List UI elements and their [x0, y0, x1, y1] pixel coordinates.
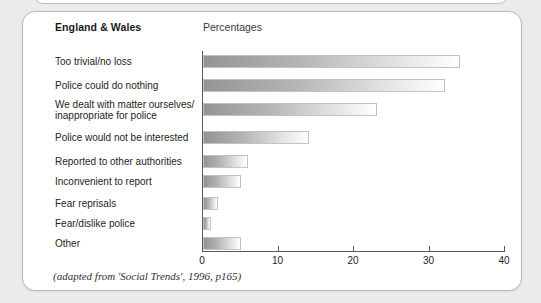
- x-axis-tick-mark: [504, 246, 505, 252]
- bar-row: Too trivial/no loss: [23, 55, 521, 68]
- bar-track: [203, 197, 505, 210]
- bar-fill: [203, 103, 377, 116]
- source-note: (adapted from 'Social Trends', 1996, p16…: [53, 270, 241, 282]
- x-axis-tick-label: 10: [272, 255, 283, 266]
- x-axis-tick-label: 20: [347, 255, 358, 266]
- bar-track: [203, 155, 505, 168]
- x-axis-tick-mark: [429, 246, 430, 252]
- bar-category-label: Reported to other authorities: [55, 156, 182, 168]
- bar-category-label: Other: [55, 238, 80, 250]
- x-axis-tick-label: 0: [199, 255, 205, 266]
- previous-figure-card-sliver: [34, 0, 508, 4]
- bar-fill: [203, 197, 218, 210]
- bar-category-label: We dealt with matter ourselves/ inapprop…: [55, 98, 194, 121]
- bar-track: [203, 131, 505, 144]
- bar-row: We dealt with matter ourselves/ inapprop…: [23, 103, 521, 116]
- bar-category-label: Fear/dislike police: [55, 218, 135, 230]
- bar-track: [203, 237, 505, 250]
- figure-card: England & Wales Percentages Too trivial/…: [22, 11, 522, 291]
- bar-category-label: Fear reprisals: [55, 198, 116, 210]
- bar-category-label: Police would not be interested: [55, 132, 188, 144]
- x-axis-tick-mark: [278, 246, 279, 252]
- bar-category-label: Too trivial/no loss: [55, 56, 132, 68]
- bar-category-label: Inconvenient to report: [55, 176, 152, 188]
- bar-chart-plot-area: Too trivial/no lossPolice could do nothi…: [23, 12, 521, 290]
- x-axis-tick-mark: [202, 246, 203, 252]
- bar-fill: [203, 217, 211, 230]
- bar-category-label: Police could do nothing: [55, 80, 158, 92]
- bar-fill: [203, 79, 445, 92]
- bar-row: Police would not be interested: [23, 131, 521, 144]
- bar-track: [203, 55, 505, 68]
- bar-fill: [203, 155, 248, 168]
- bar-fill: [203, 55, 460, 68]
- bar-fill: [203, 237, 241, 250]
- bar-fill: [203, 131, 309, 144]
- x-axis-tick-label: 40: [498, 255, 509, 266]
- bar-row: Police could do nothing: [23, 79, 521, 92]
- x-axis-tick-mark: [353, 246, 354, 252]
- bar-row: Fear reprisals: [23, 197, 521, 210]
- bar-row: Other: [23, 237, 521, 250]
- bar-track: [203, 103, 505, 116]
- bar-track: [203, 217, 505, 230]
- bar-row: Reported to other authorities: [23, 155, 521, 168]
- bar-row: Inconvenient to report: [23, 175, 521, 188]
- bar-fill: [203, 175, 241, 188]
- x-axis-tick-label: 30: [423, 255, 434, 266]
- bar-track: [203, 175, 505, 188]
- bar-track: [203, 79, 505, 92]
- bar-row: Fear/dislike police: [23, 217, 521, 230]
